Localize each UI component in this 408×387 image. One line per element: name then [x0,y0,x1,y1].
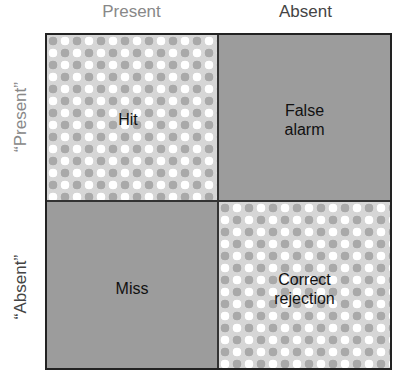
cell-correct-rejection-label: Correctrejection [274,270,334,308]
signal-detection-matrix: Hit Falsealarm Miss Correctrejection [45,33,392,370]
cell-false-alarm-label: Falsealarm [284,101,324,139]
row-label-absent: “Absent” [11,203,31,371]
column-label-absent: Absent [219,2,392,22]
row-label-present: “Present” [11,33,31,201]
cell-hit: Hit [47,35,219,202]
cell-miss-label: Miss [116,279,149,298]
column-label-present: Present [45,2,218,22]
cell-hit-label: Hit [118,110,138,129]
cell-miss: Miss [47,202,219,368]
cell-false-alarm: Falsealarm [219,35,390,202]
cell-correct-rejection: Correctrejection [219,202,390,368]
